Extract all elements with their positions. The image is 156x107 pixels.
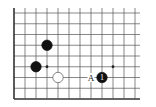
white-stone — [53, 72, 63, 82]
black-stone: 1 — [97, 72, 107, 82]
go-board-diagram: 1 A — [0, 0, 156, 107]
star-point — [46, 65, 49, 68]
board-grid — [14, 8, 140, 99]
black-stone — [31, 62, 41, 72]
stone-move-number: 1 — [100, 73, 104, 82]
star-point — [112, 65, 115, 68]
black-stone — [42, 40, 52, 50]
markers: A — [88, 73, 95, 83]
point-label-marker: A — [88, 73, 95, 83]
